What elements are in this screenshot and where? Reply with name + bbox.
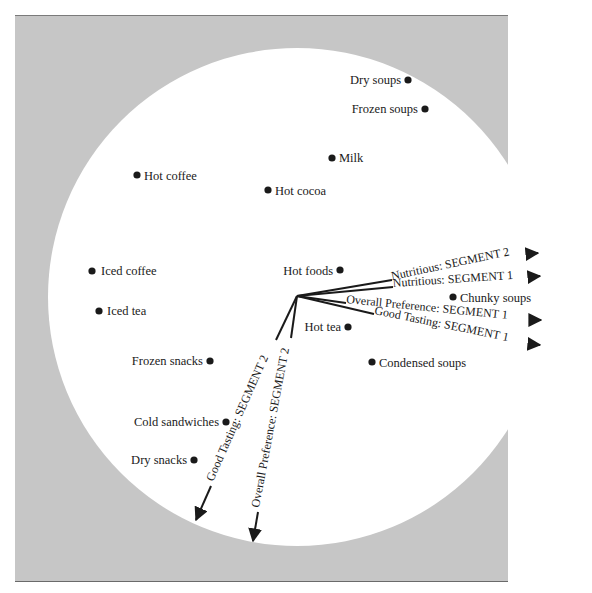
label-hot-foods: Hot foods bbox=[283, 264, 333, 278]
label-dry-snacks: Dry snacks bbox=[131, 453, 187, 467]
label-cold-sandwiches: Cold sandwiches bbox=[134, 415, 219, 429]
point-condensed-soups bbox=[368, 358, 375, 365]
label-frozen-snacks: Frozen snacks bbox=[132, 354, 203, 368]
arrow-tasting-s1-icon bbox=[528, 344, 540, 345]
label-frozen-soups: Frozen soups bbox=[352, 102, 418, 116]
point-hot-tea bbox=[344, 323, 351, 330]
point-hot-coffee bbox=[133, 171, 140, 178]
label-dry-soups: Dry soups bbox=[350, 73, 401, 87]
label-hot-tea: Hot tea bbox=[305, 320, 342, 334]
label-iced-coffee: Iced coffee bbox=[101, 264, 157, 278]
point-frozen-snacks bbox=[206, 357, 213, 364]
point-iced-coffee bbox=[88, 267, 95, 274]
point-iced-tea bbox=[95, 307, 102, 314]
label-chunky-soups: Chunky soups bbox=[460, 291, 531, 305]
perceptual-map: Nutritious: SEGMENT 2 Nutritious: SEGMEN… bbox=[0, 0, 592, 593]
arrow-nutritious-s1-icon bbox=[528, 276, 540, 277]
point-hot-cocoa bbox=[264, 186, 271, 193]
label-condensed-soups: Condensed soups bbox=[379, 356, 466, 370]
point-hot-foods bbox=[336, 266, 343, 273]
label-hot-coffee: Hot coffee bbox=[144, 169, 197, 183]
point-frozen-soups bbox=[421, 105, 428, 112]
point-chunky-soups bbox=[449, 293, 456, 300]
label-iced-tea: Iced tea bbox=[107, 304, 147, 318]
arrow-nutritious-s2-icon bbox=[526, 253, 538, 254]
label-hot-cocoa: Hot cocoa bbox=[275, 184, 326, 198]
label-milk: Milk bbox=[339, 151, 364, 165]
point-milk bbox=[328, 154, 335, 161]
point-dry-snacks bbox=[190, 456, 197, 463]
point-dry-soups bbox=[404, 76, 411, 83]
point-cold-sandwiches bbox=[222, 418, 229, 425]
